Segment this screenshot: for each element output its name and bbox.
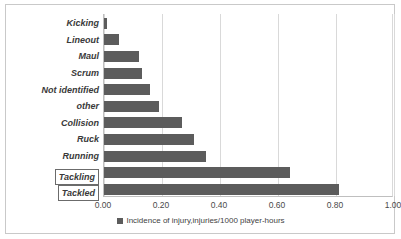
bar-row bbox=[104, 14, 394, 32]
legend-swatch-icon bbox=[117, 218, 123, 224]
bar bbox=[104, 51, 139, 62]
bar bbox=[104, 101, 159, 112]
axis-tick-label: 0.20 bbox=[153, 200, 170, 210]
category-label: Scrum bbox=[71, 64, 99, 82]
bar bbox=[104, 34, 119, 45]
bar-row bbox=[104, 130, 394, 148]
category-axis-labels: KickingLineoutMaulScrumNot identifiedoth… bbox=[12, 14, 101, 197]
chart-frame: KickingLineoutMaulScrumNot identifiedoth… bbox=[5, 4, 395, 234]
chart-legend: Incidence of injury,injuries/1000 player… bbox=[6, 216, 396, 225]
bar-row bbox=[104, 97, 394, 115]
axis-tick-label: 1.00 bbox=[385, 200, 401, 210]
category-label: Kicking bbox=[66, 14, 99, 32]
bar-row bbox=[104, 31, 394, 49]
bar-row bbox=[104, 147, 394, 165]
bar-row bbox=[104, 180, 394, 198]
bar-row bbox=[104, 81, 394, 99]
bar bbox=[104, 134, 194, 145]
bar bbox=[104, 184, 339, 195]
category-label-highlight-box: Tackled bbox=[58, 180, 99, 198]
bar-series bbox=[104, 14, 392, 196]
gridline bbox=[394, 14, 395, 196]
bar bbox=[104, 68, 142, 79]
category-label: Lineout bbox=[67, 31, 100, 49]
category-label: Ruck bbox=[77, 130, 99, 148]
axis-tick-label: 0.00 bbox=[95, 200, 112, 210]
plot-area bbox=[103, 14, 393, 197]
category-label: other bbox=[77, 97, 100, 115]
bar-row bbox=[104, 47, 394, 65]
bar-row bbox=[104, 164, 394, 182]
bar-row bbox=[104, 114, 394, 132]
category-label: Collision bbox=[61, 114, 99, 132]
bar bbox=[104, 84, 150, 95]
axis-tick-label: 0.80 bbox=[327, 200, 344, 210]
axis-tick-label: 0.40 bbox=[211, 200, 228, 210]
bar bbox=[104, 18, 107, 29]
bar bbox=[104, 167, 290, 178]
category-label: Not identified bbox=[42, 81, 100, 99]
category-label: Maul bbox=[78, 47, 99, 65]
bar bbox=[104, 151, 206, 162]
bar-row bbox=[104, 64, 394, 82]
value-axis-ticks: 0.000.200.400.600.801.00 bbox=[103, 200, 393, 214]
legend-label: Incidence of injury,injuries/1000 player… bbox=[126, 216, 284, 225]
category-label: Tackled bbox=[58, 185, 99, 201]
axis-tick-label: 0.60 bbox=[269, 200, 286, 210]
category-label: Running bbox=[63, 147, 100, 165]
bar bbox=[104, 117, 182, 128]
category-label-highlight-box: Tackling bbox=[55, 164, 99, 182]
